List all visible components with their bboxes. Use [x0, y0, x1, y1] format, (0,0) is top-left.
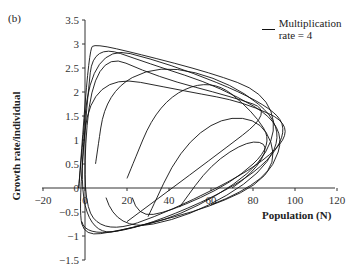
y-tick-label: 2: [74, 86, 80, 98]
y-tick-label: 3.5: [65, 14, 79, 26]
chart-plot: 3.532.521.510.50−0.5−1−1.5 −200204060801…: [0, 0, 357, 273]
y-tick-label: −1.5: [59, 254, 79, 266]
x-tick-label: 100: [287, 194, 304, 206]
y-tick-label: 1.5: [65, 110, 79, 122]
x-tick-label: 40: [164, 194, 176, 206]
y-tick-label: −1: [67, 230, 79, 242]
x-tick-label: 80: [248, 194, 260, 206]
x-tick-label: 120: [329, 194, 346, 206]
y-tick-label: 2.5: [65, 62, 79, 74]
x-tick-label: 20: [122, 194, 134, 206]
y-tick-label: 0.5: [65, 158, 79, 170]
x-tick-label: −20: [34, 194, 52, 206]
y-tick-label: 3: [74, 38, 80, 50]
y-ticks: 3.532.521.510.50−0.5−1−1.5: [59, 14, 85, 266]
y-tick-label: 1: [74, 134, 80, 146]
y-tick-label: −0.5: [59, 206, 79, 218]
